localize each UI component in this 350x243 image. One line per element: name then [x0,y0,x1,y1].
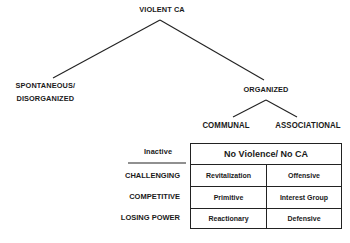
inactive-label: Inactive [132,148,184,156]
cell-competitive-associational: Interest Group [267,187,341,209]
typology-table: No Violence/ No CA Revitalization Offens… [190,143,342,229]
row-label-competitive: COMPETITIVE [129,192,180,201]
table-header: No Violence/ No CA [191,144,341,165]
cell-competitive-communal: Primitive [191,187,267,209]
cell-challenging-communal: Revitalization [191,165,267,187]
edge-root-to-spontaneous [53,20,160,78]
node-spontaneous-line1: SPONTANEOUS/ [16,82,75,90]
row-label-losing-power: LOSING POWER [121,213,180,222]
node-associational: ASSOCIATIONAL [273,121,343,130]
node-communal: COMMUNAL [200,121,252,130]
node-organized: ORGANIZED [238,86,293,94]
edge-organized-to-associational [266,100,297,117]
node-spontaneous-line2: DISORGANIZED [17,95,75,103]
edge-root-to-organized [160,20,264,80]
cell-losing-power-associational: Defensive [267,209,341,228]
cell-losing-power-communal: Reactionary [191,209,267,228]
row-label-challenging: CHALLENGING [125,171,180,180]
cell-challenging-associational: Offensive [267,165,341,187]
node-violent-ca: VIOLENT CA [133,6,192,14]
edge-organized-to-communal [233,100,266,117]
